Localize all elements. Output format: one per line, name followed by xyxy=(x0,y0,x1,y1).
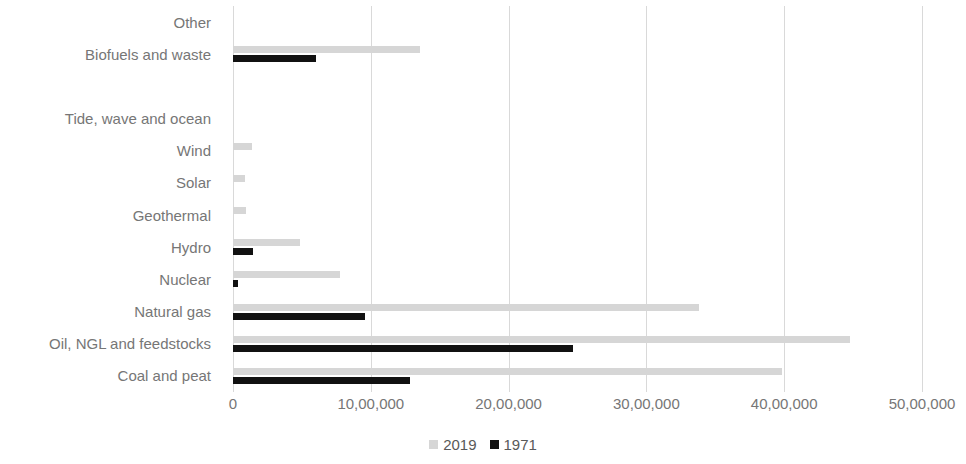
bar-1971 xyxy=(233,55,316,62)
category-label: Hydro xyxy=(0,231,222,263)
category-label: Other xyxy=(0,6,222,38)
bar-1971 xyxy=(233,313,365,320)
bar-2019 xyxy=(233,271,340,278)
category-label: Coal and peat xyxy=(0,360,222,392)
bar-1971 xyxy=(233,377,410,384)
bar-row xyxy=(233,103,922,135)
bar-1971 xyxy=(233,280,238,287)
bar-row xyxy=(233,6,922,38)
category-axis-labels: OtherBiofuels and wasteTide, wave and oc… xyxy=(0,6,222,392)
legend-label: 2019 xyxy=(443,437,476,452)
bar-row xyxy=(233,328,922,360)
bar-row xyxy=(233,167,922,199)
category-label xyxy=(0,70,222,102)
value-tick-label: 20,00,000 xyxy=(475,396,542,411)
value-tick-label: 40,00,000 xyxy=(751,396,818,411)
bar-1971 xyxy=(233,345,573,352)
bar-rows xyxy=(233,6,922,392)
bar-row xyxy=(233,296,922,328)
bar-row xyxy=(233,70,922,102)
bar-row xyxy=(233,263,922,295)
value-tick-label: 0 xyxy=(229,396,237,411)
bar-row xyxy=(233,231,922,263)
bar-chart: OtherBiofuels and wasteTide, wave and oc… xyxy=(0,0,966,464)
category-label: Nuclear xyxy=(0,263,222,295)
value-tick-label: 10,00,000 xyxy=(337,396,404,411)
legend-swatch-icon xyxy=(490,440,499,449)
bar-2019 xyxy=(233,207,246,214)
value-tick-label: 30,00,000 xyxy=(613,396,680,411)
value-tick-label: 50,00,000 xyxy=(889,396,956,411)
value-axis-labels: 010,00,00020,00,00030,00,00040,00,00050,… xyxy=(233,396,922,420)
category-label: Geothermal xyxy=(0,199,222,231)
legend-label: 1971 xyxy=(504,437,537,452)
bar-2019 xyxy=(233,143,252,150)
bar-1971 xyxy=(233,248,253,255)
bar-row xyxy=(233,360,922,392)
bar-row xyxy=(233,38,922,70)
bar-2019 xyxy=(233,368,782,375)
bar-row xyxy=(233,135,922,167)
legend-swatch-icon xyxy=(429,440,438,449)
gridline xyxy=(922,6,923,392)
category-label: Natural gas xyxy=(0,296,222,328)
bar-2019 xyxy=(233,175,245,182)
bar-2019 xyxy=(233,336,850,343)
chart-legend: 20191971 xyxy=(0,437,966,452)
legend-item[interactable]: 2019 xyxy=(429,437,476,452)
category-label: Wind xyxy=(0,135,222,167)
category-label: Solar xyxy=(0,167,222,199)
bar-row xyxy=(233,199,922,231)
plot-area xyxy=(233,6,922,392)
bar-2019 xyxy=(233,46,420,53)
category-label: Oil, NGL and feedstocks xyxy=(0,328,222,360)
legend-item[interactable]: 1971 xyxy=(490,437,537,452)
category-label: Tide, wave and ocean xyxy=(0,103,222,135)
bar-2019 xyxy=(233,304,699,311)
category-label: Biofuels and waste xyxy=(0,38,222,70)
bar-2019 xyxy=(233,239,300,246)
